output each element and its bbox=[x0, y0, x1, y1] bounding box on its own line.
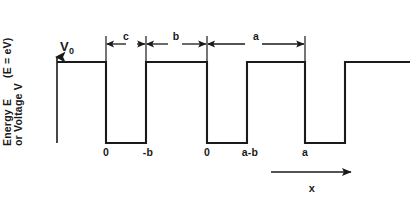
dimension-label-b: b bbox=[173, 31, 180, 42]
tick-label-a: a bbox=[302, 147, 308, 158]
x-axis-label: x bbox=[309, 183, 315, 194]
v0-letter: V bbox=[60, 39, 69, 54]
v0-level-label: V0 bbox=[60, 40, 74, 56]
diagram-canvas bbox=[0, 0, 415, 204]
dimension-label-c: c bbox=[123, 31, 129, 42]
v0-subscript: 0 bbox=[69, 46, 74, 56]
dimension-label-a: a bbox=[253, 31, 259, 42]
potential-diagram-figure: (E = eV) Energy E or Voltage V V0 c b a … bbox=[0, 0, 415, 204]
tick-label-origin-2: 0 bbox=[204, 147, 210, 158]
dimension-extension-lines bbox=[106, 36, 305, 62]
y-axis-title-line2: or Voltage V bbox=[13, 83, 24, 146]
y-axis-title: Energy E or Voltage V bbox=[2, 83, 23, 146]
y-axis-title-line1: Energy E bbox=[2, 83, 13, 146]
y-axis-units-label: (E = eV) bbox=[2, 38, 13, 78]
tick-label-a-minus-b: a-b bbox=[242, 147, 258, 158]
tick-label-minus-b: -b bbox=[143, 147, 153, 158]
potential-curve bbox=[57, 62, 410, 143]
tick-label-origin-1: 0 bbox=[103, 147, 109, 158]
